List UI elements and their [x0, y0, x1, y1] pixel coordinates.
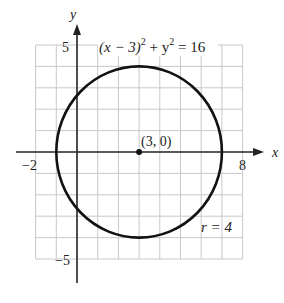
x-axis-arrow-icon [253, 148, 264, 156]
radius-label: r = 4 [201, 219, 232, 235]
equation-label: (x − 3)2 + y2 = 16 [99, 36, 206, 56]
y-tick-5: 5 [62, 40, 69, 55]
y-axis-label: y [68, 7, 77, 22]
y-tick-neg5: −5 [55, 253, 70, 268]
x-tick-neg2: −2 [22, 158, 37, 173]
circle-graph: x y 5 −5 −2 8 (3, 0) (x − 3)2 + y2 = 16 … [0, 0, 284, 303]
y-axis [73, 24, 81, 283]
center-label: (3, 0) [141, 134, 172, 150]
y-axis-arrow-icon [73, 24, 81, 35]
x-axis-label: x [271, 145, 279, 160]
x-tick-8: 8 [239, 158, 246, 173]
center-point [136, 149, 142, 155]
